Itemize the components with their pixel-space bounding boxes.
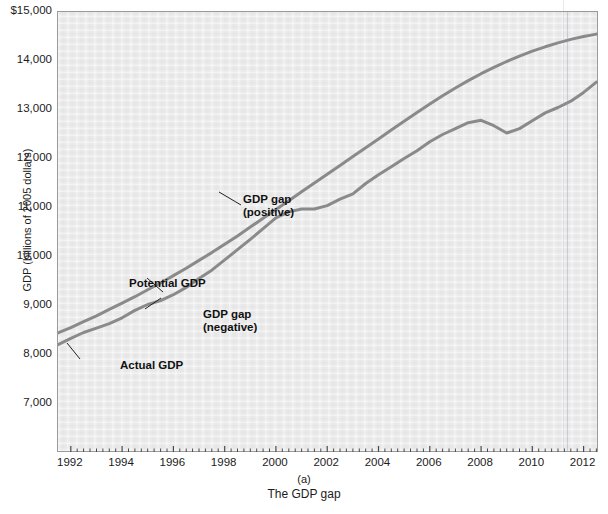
annotation-gap-positive: GDP gap (positive)	[243, 193, 294, 219]
y-tick-label-7000: 7,000	[0, 396, 52, 408]
annotation-gap-positive-line1: GDP gap	[243, 193, 294, 206]
annotation-actual-gdp-line1: Actual GDP	[120, 359, 183, 372]
chart-svg	[58, 12, 599, 453]
x-tick-label-1996: 1996	[149, 456, 195, 468]
scan-fold-line-outer	[563, 0, 564, 452]
leader-actual-gdp	[67, 343, 80, 359]
x-tick-label-1994: 1994	[98, 456, 144, 468]
quarterly-tick-marks	[71, 446, 597, 452]
gdp-gap-figure: GDP gap (positive) Potential GDP GDP gap…	[0, 0, 608, 514]
figure-caption: The GDP gap	[0, 487, 608, 501]
x-tick-label-2004: 2004	[354, 456, 400, 468]
x-tick-label-2006: 2006	[406, 456, 452, 468]
x-tick-label-2002: 2002	[303, 456, 349, 468]
leader-gap-positive	[219, 192, 241, 205]
x-tick-label-2012: 2012	[560, 456, 606, 468]
plot-area: GDP gap (positive) Potential GDP GDP gap…	[57, 11, 598, 452]
y-tick-label-14000: 14,000	[0, 53, 52, 65]
annotation-gap-positive-line2: (positive)	[243, 206, 294, 219]
x-tick-label-1992: 1992	[47, 456, 93, 468]
x-tick-label-1998: 1998	[201, 456, 247, 468]
annotation-potential-gdp: Potential GDP	[129, 277, 206, 290]
scan-fold-line	[567, 11, 568, 452]
annotation-actual-gdp: Actual GDP	[120, 359, 183, 372]
annotation-gap-negative-line2: (negative)	[203, 321, 257, 334]
annotation-gap-negative-line1: GDP gap	[203, 308, 257, 321]
x-tick-label-2008: 2008	[457, 456, 503, 468]
y-tick-label-15000: $15,000	[0, 4, 52, 16]
series-actual-gdp	[58, 82, 596, 345]
annotation-potential-gdp-line1: Potential GDP	[129, 277, 206, 290]
annotation-gap-negative: GDP gap (negative)	[203, 308, 257, 334]
y-axis-title: GDP (billions of 2005 dollars)	[21, 90, 33, 350]
x-tick-label-2000: 2000	[252, 456, 298, 468]
panel-letter: (a)	[0, 473, 608, 485]
x-tick-label-2010: 2010	[508, 456, 554, 468]
